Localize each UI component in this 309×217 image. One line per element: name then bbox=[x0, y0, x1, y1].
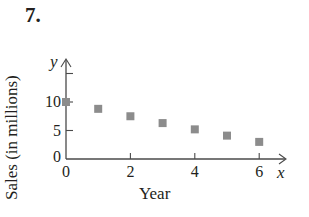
data-point bbox=[62, 98, 70, 106]
scatter-plot: 02460510yx bbox=[0, 0, 309, 217]
x-tick-label: 6 bbox=[255, 163, 263, 180]
y-variable-label: y bbox=[48, 52, 58, 71]
y-tick-label: 10 bbox=[45, 93, 61, 110]
data-point bbox=[223, 132, 231, 140]
x-tick-label: 2 bbox=[126, 163, 134, 180]
data-point bbox=[126, 112, 134, 120]
data-point bbox=[159, 119, 167, 127]
x-tick-label: 0 bbox=[62, 163, 70, 180]
x-variable-label: x bbox=[276, 163, 285, 182]
data-point bbox=[191, 125, 199, 133]
y-tick-label: 5 bbox=[53, 122, 61, 139]
data-point bbox=[255, 138, 263, 146]
data-point bbox=[94, 105, 102, 113]
x-tick-label: 4 bbox=[191, 163, 199, 180]
y-tick-label: 0 bbox=[53, 148, 61, 165]
